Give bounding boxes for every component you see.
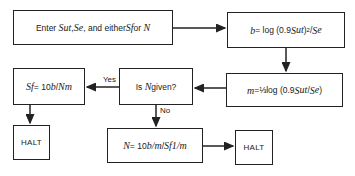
sf-calc-box: Sf = 10b /Nm	[13, 68, 85, 105]
yes-label: Yes	[103, 75, 116, 84]
halt-label: HALT	[243, 143, 264, 152]
mid-text: , and either	[83, 23, 126, 33]
var-n: N	[143, 22, 150, 33]
log-text: log (0.9	[266, 85, 294, 95]
halt-box-1: HALT	[13, 125, 50, 160]
var-s: S	[74, 22, 79, 33]
paren: )	[319, 85, 322, 95]
var-s: S	[126, 22, 131, 33]
eq-text: = log (0.9	[255, 25, 291, 35]
fraction: ⅓	[259, 85, 266, 95]
decision-box: Is N given?	[119, 68, 193, 105]
eq-text: = 10	[130, 141, 147, 151]
n-calc-box: N = 10b/m /Sf1/m	[107, 128, 203, 163]
var-n: N	[145, 81, 152, 92]
var-n: N	[58, 81, 65, 92]
m-calc-box: m = ⅓ log (0.9Sut/Se)	[226, 73, 343, 107]
pre-text: Is	[136, 82, 143, 92]
post-text: given?	[151, 82, 176, 92]
eq-text: = 10	[34, 82, 51, 92]
start-text: Enter	[36, 23, 56, 33]
var-s: S	[310, 85, 315, 96]
b-calc-box: b = log (0.9Sut)2/Se	[227, 12, 345, 48]
var-n: N	[123, 140, 130, 151]
or-text: or	[134, 23, 142, 33]
var-s: S	[295, 85, 300, 96]
start-input-box: Enter Sut, Se, and either Sf or N	[13, 10, 173, 45]
var-s: S	[59, 22, 64, 33]
no-label: No	[160, 106, 170, 115]
halt-box-2: HALT	[235, 130, 273, 165]
halt-label: HALT	[21, 138, 42, 147]
var-m: m	[247, 85, 254, 96]
